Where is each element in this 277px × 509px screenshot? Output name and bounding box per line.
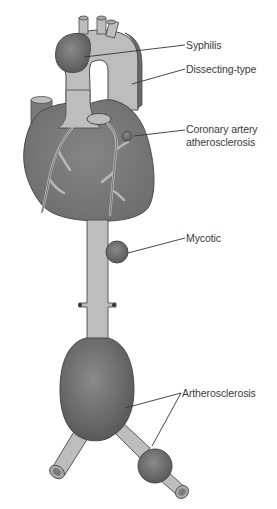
syphilis-aneurysm bbox=[56, 34, 91, 73]
abdominal-aorta bbox=[79, 220, 116, 340]
label-mycotic: Mycotic bbox=[186, 232, 221, 244]
iliac-aneurysm bbox=[138, 449, 172, 483]
label-artherosclerosis: Artherosclerosis bbox=[182, 387, 256, 399]
label-coronary-artery: Coronary artery bbox=[186, 123, 257, 135]
aneurysm-diagram bbox=[0, 0, 277, 509]
pulmonary-opening bbox=[87, 114, 111, 125]
coronary-aneurysm bbox=[122, 131, 132, 141]
mycotic-aneurysm bbox=[106, 241, 128, 263]
abdominal-aneurysm bbox=[60, 338, 134, 441]
label-dissecting-type: Dissecting-type bbox=[186, 63, 256, 75]
label-syphilis: Syphilis bbox=[186, 39, 221, 51]
label-atherosclerosis: atherosclerosis bbox=[186, 136, 255, 148]
